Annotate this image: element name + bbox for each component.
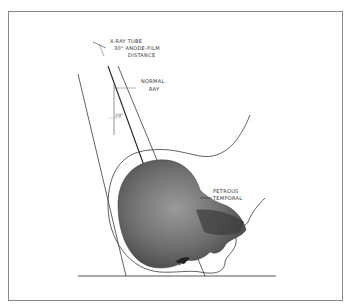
label-petrous-2: TEMPORAL bbox=[213, 195, 242, 201]
label-petrous-1: PETROUS bbox=[213, 188, 239, 194]
label-normal-2: RAY bbox=[149, 86, 159, 92]
label-tube-2: 30" ANODE-FILM bbox=[114, 45, 160, 51]
positioning-diagram bbox=[0, 0, 349, 305]
label-tube-1: X-RAY TUBE bbox=[110, 38, 142, 44]
label-tube-3: DISTANCE bbox=[128, 52, 155, 58]
label-normal-1: NORMAL bbox=[141, 78, 164, 84]
label-angle: 20° bbox=[115, 113, 124, 119]
